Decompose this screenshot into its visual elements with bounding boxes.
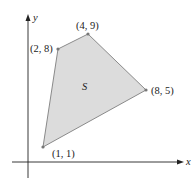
y-axis-label: y [32,12,38,23]
region-diagram: x y (1, 1) (8, 5) (4, 9) (2, 8) S [0,0,194,185]
x-axis-arrow-icon [177,160,184,165]
y-axis-arrow-icon [26,14,31,21]
x-axis-label: x [185,156,191,167]
vertex-point [41,145,44,148]
vertex-label: (1, 1) [52,148,75,160]
vertex-point [86,32,89,35]
vertex-point [144,88,147,91]
vertex-label: (8, 5) [151,85,174,97]
region-label: S [82,81,88,92]
vertex-label: (2, 8) [30,43,53,55]
region-s [43,34,146,147]
vertex-point [56,47,59,50]
vertex-label: (4, 9) [76,20,99,32]
